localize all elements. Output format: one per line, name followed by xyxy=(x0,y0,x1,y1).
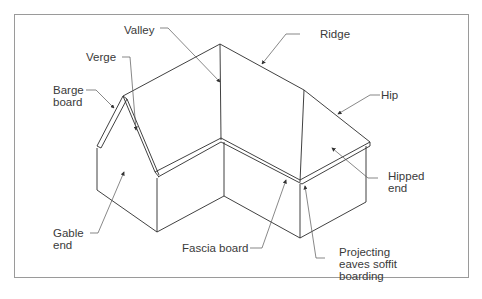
label-hip: Hip xyxy=(381,89,398,101)
label-ridge: Ridge xyxy=(320,28,350,40)
verge-line xyxy=(123,96,159,177)
label-gable-end: Gable end xyxy=(53,227,84,251)
inner-wall xyxy=(157,142,224,232)
hipped-end-wall xyxy=(300,146,366,238)
label-valley: Valley xyxy=(124,24,154,36)
leader-valley xyxy=(160,28,220,82)
label-verge: Verge xyxy=(86,51,116,63)
leader-gable xyxy=(90,172,124,233)
label-barge-board: Barge board xyxy=(53,84,84,108)
leader-eaves xyxy=(305,186,325,258)
leader-hip xyxy=(338,95,380,114)
gable-end-wall xyxy=(97,148,157,232)
ridge-line xyxy=(220,44,304,90)
label-fascia-board: Fascia board xyxy=(182,242,248,254)
leader-fascia xyxy=(250,180,286,248)
front-wall xyxy=(224,184,300,238)
leader-verge xyxy=(122,57,136,130)
barge-board xyxy=(97,96,127,148)
valley-line xyxy=(220,44,221,140)
fascia-board xyxy=(155,138,370,184)
hip-line xyxy=(304,90,370,142)
label-projecting-eaves: Projecting eaves soffit boarding xyxy=(339,246,397,282)
roof-drawing xyxy=(0,0,482,299)
hip-end-line xyxy=(300,90,304,182)
label-hipped-end: Hipped end xyxy=(388,170,424,194)
leader-ridge xyxy=(262,34,300,64)
ridge-line-left xyxy=(123,44,220,96)
leader-barge xyxy=(86,90,114,108)
